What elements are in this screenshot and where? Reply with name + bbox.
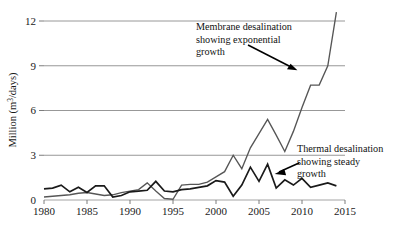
- x-tick-label-2010: 2010: [291, 205, 314, 217]
- y-tick-label-9: 9: [31, 60, 37, 72]
- y-axis-title-prefix: Million (m: [7, 102, 19, 148]
- x-tick-label-2005: 2005: [248, 205, 271, 217]
- x-tick-label-2000: 2000: [205, 205, 228, 217]
- x-tick-label-1980: 1980: [33, 205, 56, 217]
- y-tick-label-0: 0: [31, 194, 37, 206]
- membrane-annotation-line-2: showing exponential: [196, 34, 292, 47]
- thermal-annotation-line-2: showing steady: [297, 156, 383, 169]
- thermal-annotation-label: Thermal desalination showing steady grow…: [297, 143, 383, 181]
- thermal-annotation-arrow: [275, 163, 299, 175]
- x-tick-label-1985: 1985: [76, 205, 99, 217]
- series-line-membrane-desalination: [44, 12, 336, 199]
- x-tick-label-2015: 2015: [334, 205, 357, 217]
- data-series: [44, 12, 336, 199]
- x-axis-tick-labels: 19801985199019952000200520102015: [33, 205, 357, 217]
- desalination-capacity-chart: 036912 19801985199019952000200520102015 …: [0, 0, 405, 232]
- y-axis-title: Million (m3/days): [6, 72, 20, 148]
- y-tick-label-3: 3: [31, 149, 37, 161]
- membrane-annotation-line-3: growth: [196, 46, 292, 59]
- x-axis-tick-marks: [44, 200, 345, 204]
- thermal-annotation-line-3: growth: [297, 168, 383, 181]
- x-tick-label-1995: 1995: [162, 205, 185, 217]
- svg-text:Million (m3/days): Million (m3/days): [6, 72, 20, 148]
- membrane-annotation-label: Membrane desalination showing exponentia…: [196, 21, 292, 59]
- thermal-annotation-line-1: Thermal desalination: [297, 143, 383, 156]
- membrane-annotation-line-1: Membrane desalination: [196, 21, 292, 34]
- y-axis-tick-labels: 036912: [25, 15, 37, 206]
- y-axis-title-suffix: /days): [7, 72, 19, 98]
- y-tick-label-12: 12: [25, 15, 36, 27]
- y-tick-label-6: 6: [31, 104, 37, 116]
- x-tick-label-1990: 1990: [119, 205, 142, 217]
- series-line-thermal-desalination: [44, 164, 336, 197]
